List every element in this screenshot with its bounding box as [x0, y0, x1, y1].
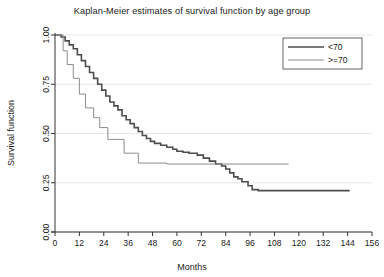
x-tick-label-0: 0 [53, 238, 58, 248]
x-tick-label-8: 96 [245, 238, 255, 248]
y-tick-label-1: 0.25 [41, 174, 51, 191]
x-tick-label-9: 108 [267, 238, 282, 248]
series-line-1 [55, 35, 289, 164]
x-tick-label-10: 120 [292, 238, 307, 248]
legend[interactable]: <70>=70 [283, 38, 362, 69]
x-tick-label-1: 12 [75, 238, 85, 248]
y-axis-label: Survival function [6, 100, 16, 166]
x-axis-label: Months [177, 262, 207, 272]
x-tick-label-4: 48 [148, 238, 158, 248]
kaplan-meier-figure: Kaplan-Meier estimates of survival funct… [0, 0, 384, 277]
x-tick-label-6: 72 [197, 238, 207, 248]
x-axis-ticks: 01224364860728496108120132144156 [53, 232, 380, 248]
x-tick-label-7: 84 [221, 238, 231, 248]
x-tick-label-5: 60 [172, 238, 182, 248]
legend-label-0: <70 [328, 42, 343, 52]
legend-box[interactable] [283, 38, 362, 69]
y-tick-label-4: 1.00 [41, 26, 51, 43]
x-tick-label-2: 24 [99, 238, 109, 248]
y-tick-label-2: 0.50 [41, 125, 51, 142]
plot-area: 01224364860728496108120132144156 0.000.2… [0, 0, 384, 277]
x-tick-label-13: 156 [365, 238, 380, 248]
y-tick-label-0: 0.00 [41, 223, 51, 240]
x-tick-label-12: 144 [340, 238, 355, 248]
x-tick-label-3: 36 [123, 238, 133, 248]
legend-label-1: >=70 [328, 55, 348, 65]
x-tick-label-11: 132 [316, 238, 331, 248]
y-tick-label-3: 0.75 [41, 76, 51, 93]
y-axis-ticks: 0.000.250.500.751.00 [41, 26, 55, 240]
